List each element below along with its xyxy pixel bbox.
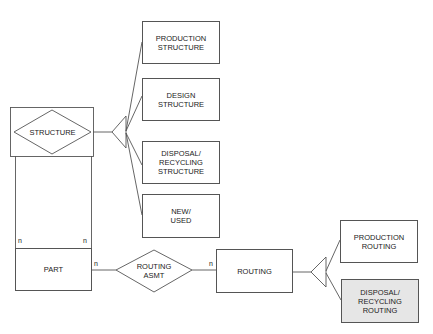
design-structure-box: DESIGN STRUCTURE: [142, 78, 220, 121]
routing-subtype-triangle: [311, 257, 326, 287]
cardinality-label: n: [83, 237, 87, 244]
part-entity-box: PART: [15, 248, 92, 291]
disposal-recycling-structure-box: DISPOSAL/ RECYCLING STRUCTURE: [142, 141, 220, 184]
new-used-box: NEW/ USED: [142, 194, 220, 238]
cardinality-label: n: [18, 237, 22, 244]
cardinality-label: n: [94, 260, 98, 267]
structure-subtype-triangle: [112, 116, 126, 148]
disposal-recycling-routing-box: DISPOSAL/ RECYCLING ROUTING: [341, 279, 419, 323]
routing-asmt-label: ROUTING ASMT: [130, 261, 178, 281]
production-structure-box: PRODUCTION STRUCTURE: [142, 21, 220, 64]
structure-entity-label: STRUCTURE: [14, 125, 91, 139]
cardinality-label: n: [209, 260, 213, 267]
routing-entity-box: ROUTING: [216, 249, 293, 293]
production-routing-box: PRODUCTION ROUTING: [340, 220, 418, 263]
